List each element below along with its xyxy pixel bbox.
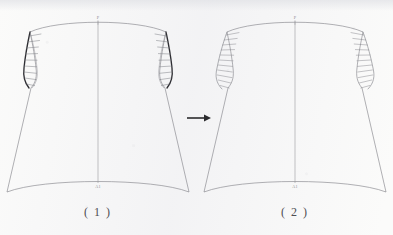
figure-2-bottom-label: A1 — [292, 184, 298, 189]
figure-2-top-label: P — [294, 15, 297, 20]
pattern-figure-2: P A1 — [200, 6, 390, 206]
figure-2-ticks-left — [217, 33, 239, 88]
pattern-draft-sheet: P A1 ( 1 ) — [0, 0, 393, 235]
pattern-figure-1: P A1 — [3, 6, 193, 206]
figure-2-caption: ( 2 ) — [281, 205, 309, 220]
figure-2-ticks-right — [351, 33, 373, 88]
figure-1-top-label: P — [97, 15, 100, 20]
figure-1-caption: ( 1 ) — [84, 205, 112, 220]
figure-1-bottom-label: A1 — [95, 184, 101, 189]
